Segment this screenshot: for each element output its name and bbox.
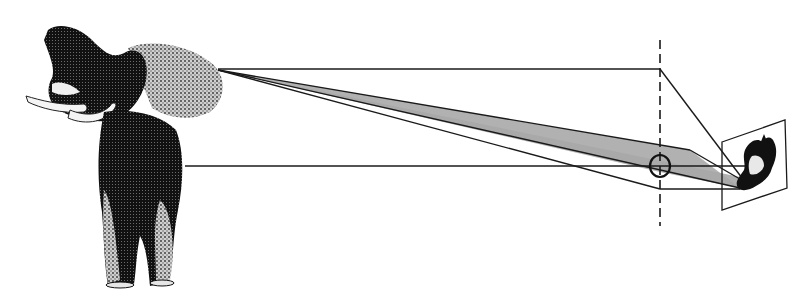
optics-diagram <box>0 0 798 304</box>
diagram-canvas <box>0 0 798 304</box>
elephant-object <box>26 26 223 288</box>
